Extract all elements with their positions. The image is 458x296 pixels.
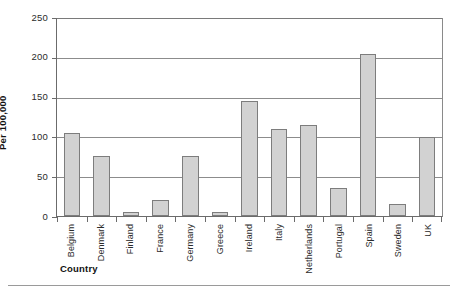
y-tick-label-250: 250 <box>14 12 48 23</box>
bar-series <box>57 18 442 216</box>
x-tick-label-belgium: Belgium <box>66 224 76 257</box>
x-label-cell: Italy <box>264 223 294 269</box>
bar-belgium <box>64 133 81 216</box>
bar-cell <box>116 18 146 216</box>
bar-france <box>152 200 169 216</box>
bar-cell <box>383 18 413 216</box>
x-tick-label-italy: Italy <box>274 224 284 241</box>
y-tick-label-50: 50 <box>14 171 48 182</box>
bar-ireland <box>241 101 258 216</box>
bar-portugal <box>330 188 347 216</box>
x-tick <box>383 216 384 222</box>
y-axis-title: Per 100,000 <box>0 96 8 151</box>
x-tick-label-sweden: Sweden <box>393 224 403 257</box>
x-label-cell: Ireland <box>235 223 265 269</box>
x-tick-label-portugal: Portugal <box>334 224 344 258</box>
bar-cell <box>87 18 117 216</box>
bar-cell <box>323 18 353 216</box>
x-tick <box>235 216 236 222</box>
x-tick-label-spain: Spain <box>364 224 374 248</box>
x-tick <box>412 216 413 222</box>
bar-germany <box>182 156 199 216</box>
bar-cell <box>412 18 442 216</box>
x-tick-label-greece: Greece <box>215 224 225 254</box>
plot-area <box>56 18 443 217</box>
x-label-cell: UK <box>413 223 443 269</box>
bar-uk <box>419 137 436 216</box>
x-tick-label-france: France <box>155 224 165 253</box>
bar-cell <box>205 18 235 216</box>
x-tick <box>323 216 324 222</box>
bar-cell <box>294 18 324 216</box>
x-tick <box>353 216 354 222</box>
x-tick-label-denmark: Denmark <box>96 224 106 261</box>
x-label-cell: Portugal <box>324 223 354 269</box>
x-label-cell: Sweden <box>383 223 413 269</box>
bar-denmark <box>93 156 110 216</box>
x-label-cell: Spain <box>354 223 384 269</box>
x-tick <box>116 216 117 222</box>
bar-cell <box>264 18 294 216</box>
bar-sweden <box>389 204 406 216</box>
y-axis-tick-labels: 250 200 150 100 50 0 <box>8 18 48 217</box>
x-label-cell: Greece <box>205 223 235 269</box>
x-tick <box>146 216 147 222</box>
x-tick-label-germany: Germany <box>185 224 195 262</box>
figure-bottom-rule <box>8 285 450 286</box>
y-tick-label-150: 150 <box>14 91 48 102</box>
bar-italy <box>271 129 288 216</box>
x-tick <box>294 216 295 222</box>
bar-cell <box>175 18 205 216</box>
bar-cell <box>146 18 176 216</box>
y-tick-label-200: 200 <box>14 51 48 62</box>
x-tick <box>87 216 88 222</box>
x-tick-label-ireland: Ireland <box>244 224 254 252</box>
x-tick <box>441 216 442 222</box>
x-axis-title: Country <box>60 263 98 274</box>
bar-finland <box>123 212 140 216</box>
x-tick <box>175 216 176 222</box>
x-tick-label-netherlands: Netherlands <box>304 224 314 274</box>
bar-spain <box>360 54 377 216</box>
x-tick <box>205 216 206 222</box>
x-label-cell: Netherlands <box>294 223 324 269</box>
bar-cell <box>353 18 383 216</box>
bar-chart-figure: 250 200 150 100 50 0 Per 100,000 Belgium… <box>0 0 458 296</box>
x-tick <box>264 216 265 222</box>
bar-netherlands <box>300 125 317 216</box>
y-tick-label-0: 0 <box>14 211 48 222</box>
x-tick-label-uk: UK <box>423 224 433 237</box>
x-tick <box>57 216 58 222</box>
x-tick-label-finland: Finland <box>125 224 135 254</box>
x-axis-tick-labels: BelgiumDenmarkFinlandFranceGermanyGreece… <box>56 223 443 269</box>
bar-cell <box>235 18 265 216</box>
bar-cell <box>57 18 87 216</box>
x-label-cell: Finland <box>116 223 146 269</box>
y-tick-label-100: 100 <box>14 131 48 142</box>
x-label-cell: Germany <box>175 223 205 269</box>
x-label-cell: France <box>145 223 175 269</box>
bar-greece <box>212 212 229 216</box>
